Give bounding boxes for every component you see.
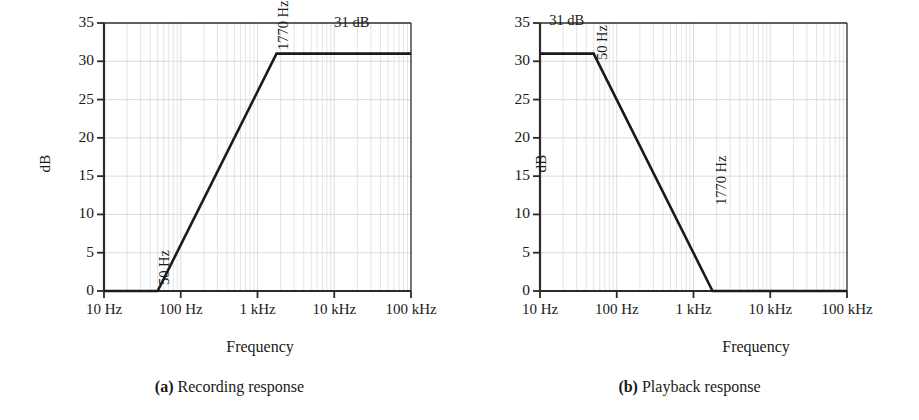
- x-axis-label: Frequency: [676, 338, 836, 356]
- x-tick-label: 100 Hz: [141, 301, 221, 318]
- y-tick-label: 15: [52, 166, 94, 184]
- y-tick-label: 20: [488, 128, 530, 146]
- chart-annotation: 31 dB: [334, 14, 369, 31]
- y-tick-label: 25: [52, 90, 94, 108]
- y-tick-label: 30: [52, 51, 94, 69]
- y-tick-label: 35: [488, 13, 530, 31]
- chart-annotation: 50 Hz: [594, 25, 611, 60]
- x-tick-label: 10 kHz: [294, 301, 374, 318]
- y-tick-label: 35: [52, 13, 94, 31]
- y-tick-label: 10: [52, 204, 94, 222]
- figure-panel-b: dB Frequency (b) Playback response 05101…: [460, 0, 919, 420]
- figure-panel-a: dB Frequency (a) Recording response 0510…: [0, 0, 459, 420]
- x-tick-label: 1 kHz: [218, 301, 298, 318]
- y-tick-label: 30: [488, 51, 530, 69]
- chart-annotation: 1770 Hz: [713, 155, 730, 205]
- x-tick-label: 100 kHz: [807, 301, 887, 318]
- chart-annotation: 50 Hz: [156, 250, 173, 285]
- x-axis-label: Frequency: [180, 338, 340, 356]
- y-tick-label: 15: [488, 166, 530, 184]
- chart-annotation: 1770 Hz: [275, 0, 292, 50]
- x-tick-label: 10 Hz: [64, 301, 144, 318]
- y-tick-label: 5: [52, 243, 94, 261]
- x-tick-label: 10 kHz: [730, 301, 810, 318]
- y-axis-label: dB: [533, 149, 550, 179]
- x-tick-label: 100 Hz: [577, 301, 657, 318]
- x-tick-label: 100 kHz: [371, 301, 451, 318]
- panel-caption-tag: (b): [618, 378, 638, 395]
- x-tick-label: 1 kHz: [654, 301, 734, 318]
- y-tick-label: 25: [488, 90, 530, 108]
- y-tick-label: 20: [52, 128, 94, 146]
- x-tick-label: 10 Hz: [500, 301, 580, 318]
- panel-caption-a: (a) Recording response: [0, 378, 459, 396]
- chart-annotation: 31 dB: [549, 12, 584, 29]
- y-tick-label: 5: [488, 243, 530, 261]
- y-tick-label: 0: [52, 281, 94, 299]
- y-axis-label: dB: [37, 149, 54, 179]
- panel-caption-text: Recording response: [178, 378, 305, 395]
- y-tick-label: 10: [488, 204, 530, 222]
- panel-caption-b: (b) Playback response: [460, 378, 919, 396]
- panel-caption-text: Playback response: [642, 378, 761, 395]
- panel-caption-tag: (a): [155, 378, 174, 395]
- y-tick-label: 0: [488, 281, 530, 299]
